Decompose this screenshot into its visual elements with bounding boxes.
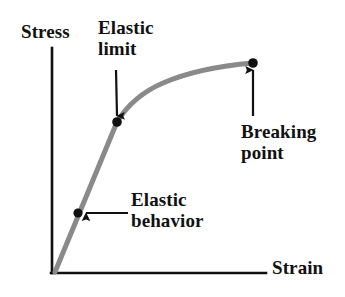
stress-strain-figure: Stress Strain Elastic limit Breaking poi…: [0, 0, 345, 297]
breaking-point-label: Breaking point: [241, 122, 316, 163]
elastic-limit-label: Elastic limit: [98, 18, 154, 59]
curve-group: [55, 63, 253, 272]
elastic-behavior-point-marker: [73, 208, 82, 217]
axes-group: [51, 48, 266, 273]
breaking-point-label-line1: Breaking: [241, 122, 316, 143]
x-axis-label: Strain: [272, 258, 323, 279]
breaking-point-label-line2: point: [241, 143, 316, 164]
elastic-limit-label-line1: Elastic: [98, 18, 154, 39]
elastic-limit-point-marker: [112, 117, 122, 127]
breaking-point-marker: [248, 58, 258, 68]
y-axis-label: Stress: [21, 22, 70, 43]
elastic-behavior-label-line2: behavior: [131, 211, 204, 232]
elastic-behavior-label: Elastic behavior: [131, 190, 204, 231]
stress-strain-curve: [55, 63, 253, 272]
elastic-behavior-label-line1: Elastic: [131, 190, 204, 211]
elastic-limit-label-line2: limit: [98, 39, 154, 60]
elastic-limit-arrow: [116, 70, 117, 116]
